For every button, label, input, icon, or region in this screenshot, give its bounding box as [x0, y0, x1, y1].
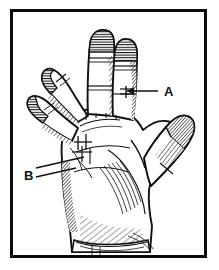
hand-illustration-figure: A B [0, 0, 219, 270]
ring-finger [113, 39, 137, 120]
hand-drawing-canvas: A B [0, 0, 219, 270]
middle-finger [88, 30, 115, 116]
annotation-label-a: A [164, 84, 174, 99]
annotation-label-b: B [24, 168, 33, 183]
